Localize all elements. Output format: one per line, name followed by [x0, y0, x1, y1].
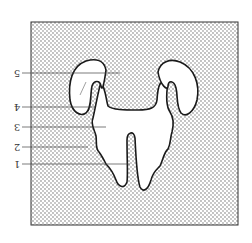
label-2: 2 [13, 142, 21, 152]
label-5: 5 [13, 68, 21, 78]
stippled-diagram [0, 0, 252, 243]
label-4: 4 [13, 102, 21, 112]
label-1: 1 [13, 159, 21, 169]
label-3: 3 [13, 122, 21, 132]
